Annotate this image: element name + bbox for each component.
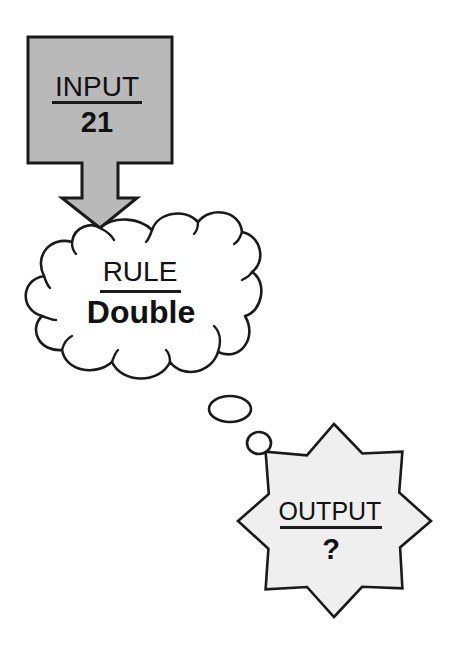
output-divider-line <box>280 526 382 529</box>
rule-value: Double <box>87 296 195 328</box>
output-heading: OUTPUT <box>279 499 382 524</box>
input-value: 21 <box>81 108 113 137</box>
output-value: ? <box>322 535 340 564</box>
function-machine-diagram: INPUT 21 RULE Double OUTPUT ? <box>0 0 457 654</box>
rule-heading: RULE <box>103 258 178 286</box>
rule-divider-line <box>100 290 181 293</box>
input-heading: INPUT <box>55 73 139 101</box>
input-divider-line <box>52 101 142 104</box>
thought-bubble-large <box>209 396 251 422</box>
thought-bubble-small <box>247 432 271 454</box>
